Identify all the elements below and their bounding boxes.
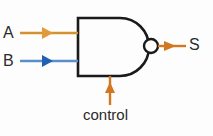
output-s-wire	[158, 41, 186, 51]
nand-gate-body	[78, 18, 149, 76]
inversion-bubble-icon	[144, 39, 158, 53]
input-a-wire	[20, 27, 78, 39]
input-b-arrowhead-icon	[42, 55, 53, 67]
input-b-label: B	[3, 53, 14, 69]
control-arrowhead-icon	[105, 82, 115, 93]
diagram-canvas: A B S control	[0, 0, 213, 136]
control-wire	[105, 76, 115, 105]
output-s-arrowhead-icon	[164, 41, 176, 51]
input-b-wire	[20, 55, 78, 67]
output-s-label: S	[189, 37, 200, 53]
input-a-label: A	[3, 25, 14, 41]
input-a-arrowhead-icon	[42, 27, 53, 39]
control-label: control	[83, 107, 128, 122]
